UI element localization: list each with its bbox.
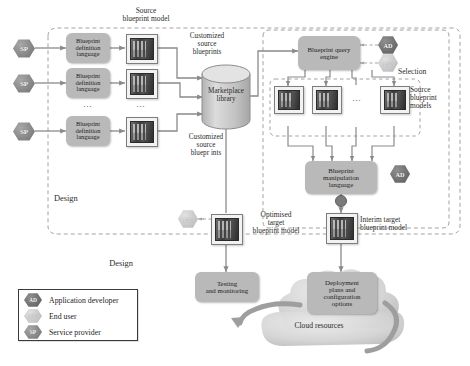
actor-sp-1-label: SP — [20, 45, 28, 53]
marketplace-library-cylinder — [200, 62, 252, 132]
server-body — [130, 73, 154, 95]
server-body — [278, 90, 300, 110]
blueprint-query-engine-box[interactable]: Blueprint query engine — [298, 36, 360, 70]
server-body — [316, 90, 338, 110]
selected-source-model-1[interactable] — [274, 86, 304, 114]
legend-eu-abbr: EU — [29, 313, 37, 319]
connector-model-b-bml — [326, 126, 332, 161]
legend-sp-abbr: SP — [30, 329, 37, 335]
connector-model-c-bml — [352, 127, 356, 161]
server-body — [330, 217, 354, 240]
connector-model3-marketplace — [157, 114, 203, 131]
optimised-target-blueprint-model[interactable] — [211, 214, 243, 245]
legend-ad-abbr: AD — [29, 297, 37, 303]
server-body — [384, 90, 406, 110]
legend-eu-label: End user — [49, 312, 77, 321]
connector-cloud-testing-head — [231, 317, 245, 328]
selected-source-model-2[interactable] — [312, 86, 342, 114]
blueprint-definition-language-box-3[interactable]: Blueprint definition language — [66, 116, 110, 146]
blueprint-manipulation-language-box[interactable]: Blueprint manipulation language — [305, 161, 377, 194]
legend-eu-icon: EU — [24, 309, 42, 323]
connector-qe-model-a — [288, 70, 305, 86]
server-body — [130, 38, 154, 60]
connector-qe-model-b — [326, 70, 330, 86]
source-blueprint-model-1[interactable] — [126, 34, 158, 64]
selected-source-model-3[interactable] — [380, 86, 410, 114]
source-blueprint-model-3[interactable] — [126, 117, 158, 147]
actor-ad-bml-label: AD — [396, 171, 405, 178]
server-body — [215, 218, 239, 241]
connector-model-d-bml — [372, 126, 394, 161]
interim-target-blueprint-model[interactable] — [326, 213, 358, 244]
source-blueprint-model-2[interactable] — [126, 69, 158, 99]
blueprint-definition-language-box-2[interactable]: Blueprint definition language — [66, 68, 110, 98]
connector-model-a-bml — [288, 126, 313, 161]
legend-ad-label: Application developer — [49, 296, 119, 305]
legend-row-ad: AD Application developer — [24, 293, 119, 307]
connector-qe-model-d — [372, 70, 394, 86]
blueprint-definition-language-box-1[interactable]: Blueprint definition language — [66, 33, 110, 63]
junction-node — [336, 196, 347, 207]
connector-qe-model-c — [352, 70, 356, 85]
legend-row-eu: EU End user — [24, 309, 77, 323]
legend-ad-icon: AD — [24, 293, 42, 307]
actor-eu-optimised-label: EU — [184, 216, 193, 223]
actor-sp-3-label: SP — [20, 128, 28, 136]
connector-model1-marketplace — [157, 48, 203, 78]
legend-row-sp: SP Service provider — [24, 325, 101, 339]
legend-sp-label: Service provider — [49, 328, 101, 337]
server-body — [130, 121, 154, 143]
cloud-resources-shape-lower — [261, 310, 404, 346]
legend-sp-icon: SP — [24, 325, 42, 339]
connector-model2-marketplace — [157, 83, 203, 97]
testing-and-monitoring-box[interactable]: Testing and monitoring — [195, 272, 259, 302]
actor-ad-query-label: AD — [384, 42, 393, 49]
actor-eu-query-label: EU — [384, 60, 393, 67]
deployment-plans-box[interactable]: Deployment plans and configuration optio… — [307, 272, 377, 314]
actor-sp-2-label: SP — [20, 80, 28, 88]
